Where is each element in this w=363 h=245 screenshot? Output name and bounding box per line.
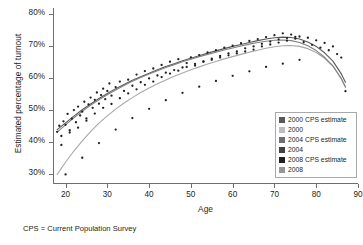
scatter-point xyxy=(140,81,142,83)
scatter-point xyxy=(165,71,167,73)
scatter-point xyxy=(160,76,162,78)
scatter-point xyxy=(77,105,79,107)
scatter-point xyxy=(261,43,263,45)
scatter-point xyxy=(102,107,104,109)
legend-item[interactable]: 2004 CPS estimate xyxy=(279,135,354,145)
scatter-point xyxy=(100,94,102,96)
scatter-point xyxy=(108,82,110,84)
scatter-point xyxy=(165,99,167,101)
x-tick xyxy=(316,184,317,188)
scatter-point xyxy=(194,63,196,65)
scatter-point xyxy=(328,49,330,51)
scatter-point xyxy=(186,62,188,64)
scatter-point xyxy=(58,125,60,127)
scatter-point xyxy=(248,40,250,42)
legend-label: 2000 xyxy=(288,125,303,135)
scatter-point xyxy=(85,117,87,119)
scatter-point xyxy=(144,70,146,72)
scatter-point xyxy=(190,56,192,58)
scatter-point xyxy=(198,54,200,56)
scatter-point xyxy=(81,157,83,159)
x-tick-label: 50 xyxy=(176,190,206,199)
scatter-point xyxy=(60,135,62,137)
x-tick-label: 60 xyxy=(218,190,248,199)
scatter-point xyxy=(77,127,79,129)
legend-label: 2008 xyxy=(288,165,303,175)
scatter-point xyxy=(89,96,91,98)
scatter-point xyxy=(219,55,221,57)
scatter-point xyxy=(85,119,87,121)
scatter-point xyxy=(94,99,96,101)
y-tick-label: 70% xyxy=(0,40,45,49)
scatter-point xyxy=(206,51,208,53)
y-tick-label: 40% xyxy=(0,136,45,145)
scatter-point xyxy=(148,108,150,110)
scatter-point xyxy=(160,64,162,66)
scatter-point xyxy=(92,107,94,109)
scatter-point xyxy=(115,86,117,88)
legend-item[interactable]: 2000 CPS estimate xyxy=(279,115,354,125)
x-tick xyxy=(274,184,275,188)
scatter-point xyxy=(252,48,254,50)
x-tick xyxy=(358,184,359,188)
scatter-point xyxy=(83,101,85,103)
scatter-point xyxy=(215,49,217,51)
scatter-point xyxy=(298,59,300,61)
scatter-point xyxy=(282,63,284,65)
y-tick-label: 50% xyxy=(0,104,45,113)
scatter-point xyxy=(282,32,284,34)
scatter-point xyxy=(135,73,137,75)
scatter-point xyxy=(273,34,275,36)
scatter-point xyxy=(236,50,238,52)
scatter-point xyxy=(244,47,246,49)
scatter-point xyxy=(148,77,150,79)
scatter-point xyxy=(123,90,125,92)
scatter-point xyxy=(64,124,66,126)
scatter-point xyxy=(269,43,271,45)
scatter-point xyxy=(135,88,137,90)
x-tick-label: 80 xyxy=(301,190,331,199)
legend-item[interactable]: 2000 xyxy=(279,125,354,135)
x-tick xyxy=(107,184,108,188)
scatter-point xyxy=(269,40,271,42)
scatter-point xyxy=(311,44,313,46)
scatter-point xyxy=(119,97,121,99)
x-tick-label: 20 xyxy=(51,190,81,199)
legend-item[interactable]: 2004 xyxy=(279,145,354,155)
scatter-point xyxy=(181,92,183,94)
scatter-point xyxy=(232,45,234,47)
scatter-point xyxy=(152,80,154,82)
x-axis-title: Age xyxy=(53,204,358,214)
scatter-point xyxy=(127,79,129,81)
scatter-point xyxy=(64,173,66,175)
scatter-point xyxy=(286,37,288,39)
scatter-point xyxy=(248,70,250,72)
scatter-point xyxy=(69,129,71,131)
y-tick-label: 80% xyxy=(0,8,45,17)
scatter-point xyxy=(261,45,263,47)
scatter-point xyxy=(277,41,279,43)
scatter-point xyxy=(211,57,213,59)
scatter-point xyxy=(56,131,58,133)
scatter-point xyxy=(110,95,112,97)
scatter-point xyxy=(215,80,217,82)
x-tick xyxy=(191,184,192,188)
legend-label: 2004 CPS estimate xyxy=(288,135,347,145)
scatter-point xyxy=(173,69,175,71)
scatter-point xyxy=(131,85,133,87)
legend-box: 2000 CPS estimate20002004 CPS estimate20… xyxy=(275,112,357,178)
x-tick-label: 90 xyxy=(343,190,363,199)
x-tick-label: 40 xyxy=(134,190,164,199)
scatter-point xyxy=(340,56,342,58)
legend-item[interactable]: 2008 xyxy=(279,165,354,175)
scatter-point xyxy=(79,114,81,116)
scatter-point xyxy=(307,37,309,39)
legend-item[interactable]: 2008 CPS estimate xyxy=(279,155,354,165)
scatter-point xyxy=(315,39,317,41)
scatter-point xyxy=(69,131,71,133)
scatter-point xyxy=(344,90,346,92)
x-tick xyxy=(149,184,150,188)
scatter-point xyxy=(323,42,325,44)
x-tick-label: 30 xyxy=(92,190,122,199)
scatter-point xyxy=(102,87,104,89)
